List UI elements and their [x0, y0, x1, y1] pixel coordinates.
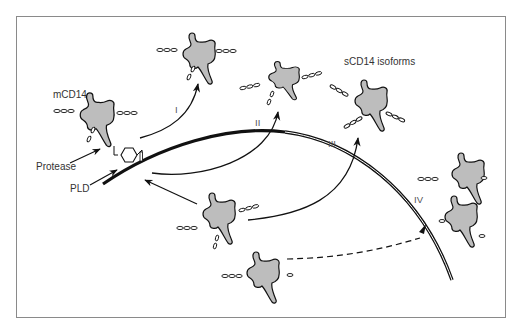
- scd14-isoform-ii: [240, 62, 322, 106]
- label-pathway-iii: III: [328, 139, 336, 149]
- label-scd14-isoforms: sCD14 isoforms: [344, 57, 415, 67]
- label-mcd14: mCD14: [53, 90, 87, 100]
- label-pld: PLD: [70, 184, 89, 194]
- mcd14-molecule: [54, 93, 143, 162]
- label-pathway-ii: II: [255, 118, 260, 128]
- label-pathway-iv: IV: [414, 195, 423, 205]
- scd14-isoform-i: [157, 33, 236, 84]
- intracellular-molecule-2: [222, 252, 293, 303]
- scd14-isoform-iii: [329, 80, 405, 131]
- label-pathway-i: I: [175, 105, 178, 115]
- diagram-graphics: [0, 0, 525, 336]
- diagram-canvas: mCD14 Protease PLD sCD14 isoforms I II I…: [0, 0, 525, 336]
- intracellular-molecule-1: [177, 193, 259, 249]
- label-protease: Protease: [36, 162, 76, 172]
- cell-membrane: [103, 131, 452, 280]
